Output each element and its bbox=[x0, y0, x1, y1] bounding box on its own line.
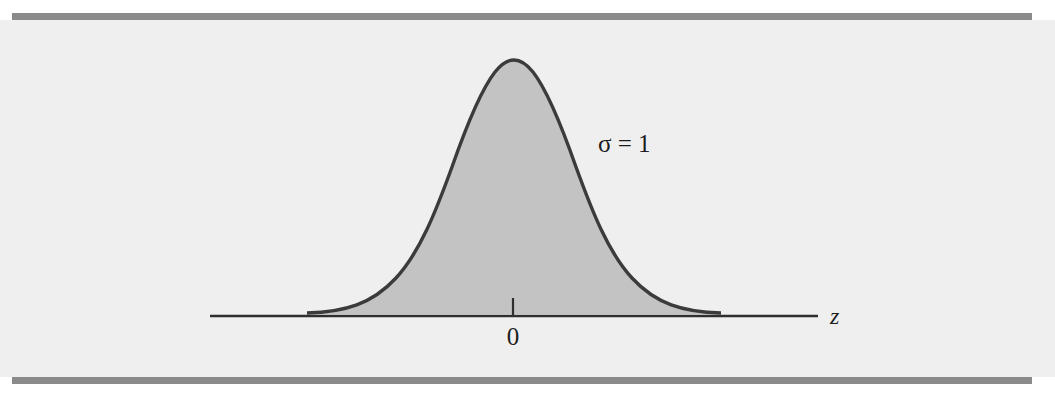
zero-tick-label: 0 bbox=[507, 323, 520, 350]
z-axis-label: z bbox=[829, 303, 840, 329]
figure-root: FIGURE 6.5 STANDARD NORMAL DISTRIBUTION … bbox=[0, 0, 1055, 395]
sigma-label: σ = 1 bbox=[598, 130, 651, 157]
normal-distribution-plot: σ = 1 0 z bbox=[0, 0, 1055, 395]
rule-bottom bbox=[12, 377, 1032, 384]
curve-shaded-area bbox=[307, 61, 721, 314]
